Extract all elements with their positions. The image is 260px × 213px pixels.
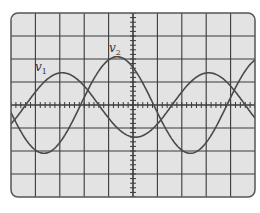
oscilloscope-screen: v1 v2 <box>0 0 260 213</box>
